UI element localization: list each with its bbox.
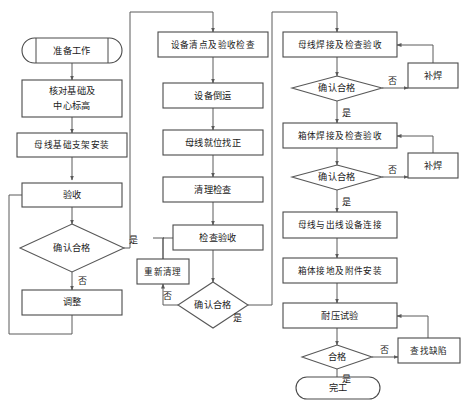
node-col3-decision2-label: 确认合格 [318,171,356,182]
edge-label-decision2-yes: 是 [342,197,351,207]
flowchart-canvas: 准备工作 核对基础及 中心标高 母线基础支架安装 验收 确认合格 [0,0,467,401]
node-acceptance[interactable]: 验收 [22,183,122,207]
node-col3-decision2[interactable]: 确认合格 [292,165,382,190]
node-busbar-weld-label: 母线焊接及检查验收 [298,39,383,50]
node-col3-decision3[interactable]: 合格 [302,345,372,369]
node-inspect-accept-label: 检查验收 [199,232,237,243]
node-outlet-connect-label: 母线与出线设备连接 [298,219,383,230]
node-align[interactable]: 母线就位找正 [163,130,263,155]
node-col3-decision1[interactable]: 确认合格 [292,76,382,101]
node-find-defect-label: 查找缺陷 [410,345,448,356]
node-check-base-label-line1: 核对基础及 [49,85,96,96]
node-start-label: 准备工作 [53,45,91,56]
node-acceptance-label: 验收 [63,189,82,200]
edge-label-col1-yes: 是 [129,235,138,245]
edge-label-col1-no: 否 [78,276,87,286]
node-inventory-label: 设备清点及验收检查 [171,39,256,50]
edge-label-decision3-yes: 是 [342,374,351,384]
node-check-base[interactable]: 核对基础及 中心标高 [22,80,122,117]
node-pressure-test-label: 耐压试验 [321,310,359,321]
node-check-base-label-line2: 中心标高 [53,100,91,111]
node-bracket-install[interactable]: 母线基础支架安装 [17,133,127,157]
node-repair-weld-1-label: 补焊 [424,70,443,81]
node-case-weld[interactable]: 箱体焊接及检查验收 [283,123,397,148]
node-finish[interactable]: 完工 [296,377,380,399]
node-pressure-test[interactable]: 耐压试验 [283,303,397,328]
node-reclean[interactable]: 重新清理 [137,259,189,284]
node-align-label: 母线就位找正 [185,137,241,148]
edge-label-decision2-no: 否 [388,165,397,175]
edge-label-col2-yes: 是 [233,313,242,323]
node-col3-decision3-label: 合格 [328,351,347,362]
edge-label-decision1-no: 否 [388,76,397,86]
node-adjust[interactable]: 调整 [22,290,122,315]
node-reclean-label: 重新清理 [144,266,182,277]
node-col3-decision1-label: 确认合格 [318,82,356,93]
edge-reclean-riser [153,238,164,259]
node-busbar-weld[interactable]: 母线焊接及检查验收 [283,32,397,57]
node-transport-label: 设备倒运 [194,90,232,101]
node-outlet-connect[interactable]: 母线与出线设备连接 [283,212,397,238]
column-2-group: 设备清点及验收检查 设备倒运 母线就位找正 清理检查 检查验收 重新清理 [137,32,268,328]
edge-repair1-loop-to-busbarweld [397,45,433,63]
node-col1-decision[interactable]: 确认合格 [20,224,124,272]
node-clean-check[interactable]: 清理检查 [163,177,263,202]
node-repair-weld-2-label: 补焊 [424,160,443,171]
edge-repair2-loop-to-caseweld [397,136,433,153]
edge-label-decision3-no: 否 [380,345,389,355]
node-find-defect[interactable]: 查找缺陷 [398,338,460,363]
node-repair-weld-1[interactable]: 补焊 [408,63,458,88]
node-case-weld-label: 箱体焊接及检查验收 [298,130,383,141]
edge-label-col2-no: 否 [163,291,172,301]
node-start[interactable]: 准备工作 [22,38,122,63]
node-bracket-install-label: 母线基础支架安装 [34,139,109,150]
node-col1-decision-label: 确认合格 [53,242,91,253]
node-inventory[interactable]: 设备清点及验收检查 [158,32,268,57]
node-inspect-accept[interactable]: 检查验收 [173,225,263,250]
node-clean-check-label: 清理检查 [194,184,232,195]
edge-label-decision1-yes: 是 [342,108,351,118]
column-3-group: 母线焊接及检查验收 确认合格 补焊 箱体焊接及检查验收 确认合格 补焊 [283,32,460,399]
edge-reclean-top [163,238,173,259]
node-ground-install-label: 箱体接地及附件安装 [298,265,383,276]
node-repair-weld-2[interactable]: 补焊 [408,153,458,178]
flowchart-svg: 准备工作 核对基础及 中心标高 母线基础支架安装 验收 确认合格 [0,0,467,401]
node-col2-decision-label: 确认合格 [194,299,232,310]
node-adjust-label: 调整 [63,296,82,307]
node-transport[interactable]: 设备倒运 [163,83,263,108]
column-1-group: 准备工作 核对基础及 中心标高 母线基础支架安装 验收 确认合格 [17,38,138,315]
edge-finddefect-loop-to-pressuretest [397,316,428,338]
node-ground-install[interactable]: 箱体接地及附件安装 [283,258,397,283]
